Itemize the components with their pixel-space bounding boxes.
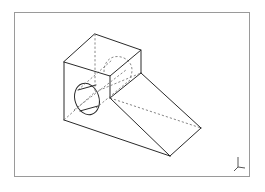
hidden-bottom-back [64,92,95,120]
ramp-tip-edge [170,128,201,156]
hidden-ramp-diagonal [110,98,201,128]
visible-edges [64,34,201,156]
hidden-hole-far-arc [104,57,132,78]
bottom-left-edge [64,120,170,156]
hole-tangent-bottom [80,106,98,111]
hidden-hole-line-bottom [96,80,130,108]
cad-wireframe-drawing [0,0,265,192]
ramp-top-edge [141,73,201,128]
ramp-front-edge [110,98,170,156]
ramp-join-edge [110,73,141,98]
axis-triad-icon [234,157,245,171]
top-face-edge [64,34,141,76]
